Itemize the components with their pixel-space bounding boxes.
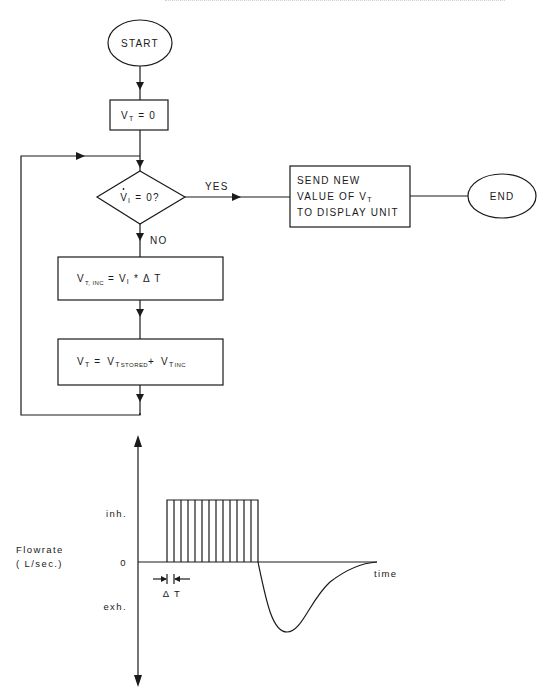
y-tick-zero: 0 [120,557,127,568]
y-axis-label-line1: Flowrate [16,544,64,555]
delta-t-marker: Δ T [153,574,190,599]
x-axis-label: time [374,568,398,579]
y-axis-up-arrow-icon [134,435,142,447]
exhalation-curve [258,562,377,632]
y-tick-exh: exh. [103,601,127,612]
flowrate-chart: inh. 0 exh. Flowrate ( L/sec.) time Δ T [0,0,554,698]
y-axis-label-line2: ( L/sec.) [16,558,63,569]
y-axis-down-arrow-icon [134,675,142,687]
inhalation-pulse [167,500,258,562]
delta-t-label: Δ T [163,588,181,599]
y-tick-inh: inh. [106,508,127,519]
